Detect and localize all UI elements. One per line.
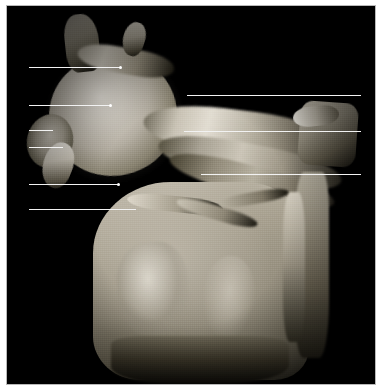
specimen-photograph xyxy=(7,6,375,384)
leader-line-1 xyxy=(187,95,361,96)
leader-line-3 xyxy=(201,174,361,175)
callout-label-4: 4 xyxy=(17,203,23,214)
leader-line-4 xyxy=(29,209,136,210)
callout-label-6: 6 xyxy=(17,141,23,152)
leader-line-2 xyxy=(184,131,361,132)
callout-label-5: 5 xyxy=(17,178,23,189)
photo-frame xyxy=(6,5,376,385)
leader-line-5 xyxy=(29,184,119,185)
callout-label-3: 3 xyxy=(366,169,372,180)
callout-label-9: 9 xyxy=(17,62,23,73)
inferior-angle xyxy=(111,336,289,384)
anatomical-plate: 987654123 xyxy=(0,0,382,390)
leader-line-9 xyxy=(29,67,121,68)
callout-label-1: 1 xyxy=(366,90,372,101)
callout-label-7: 7 xyxy=(17,124,23,135)
lateral-border-inner xyxy=(283,192,305,342)
callout-label-2: 2 xyxy=(366,126,372,137)
leader-line-7 xyxy=(29,130,53,131)
leader-line-8 xyxy=(29,105,111,106)
callout-label-8: 8 xyxy=(17,99,23,110)
leader-line-6 xyxy=(29,147,63,148)
